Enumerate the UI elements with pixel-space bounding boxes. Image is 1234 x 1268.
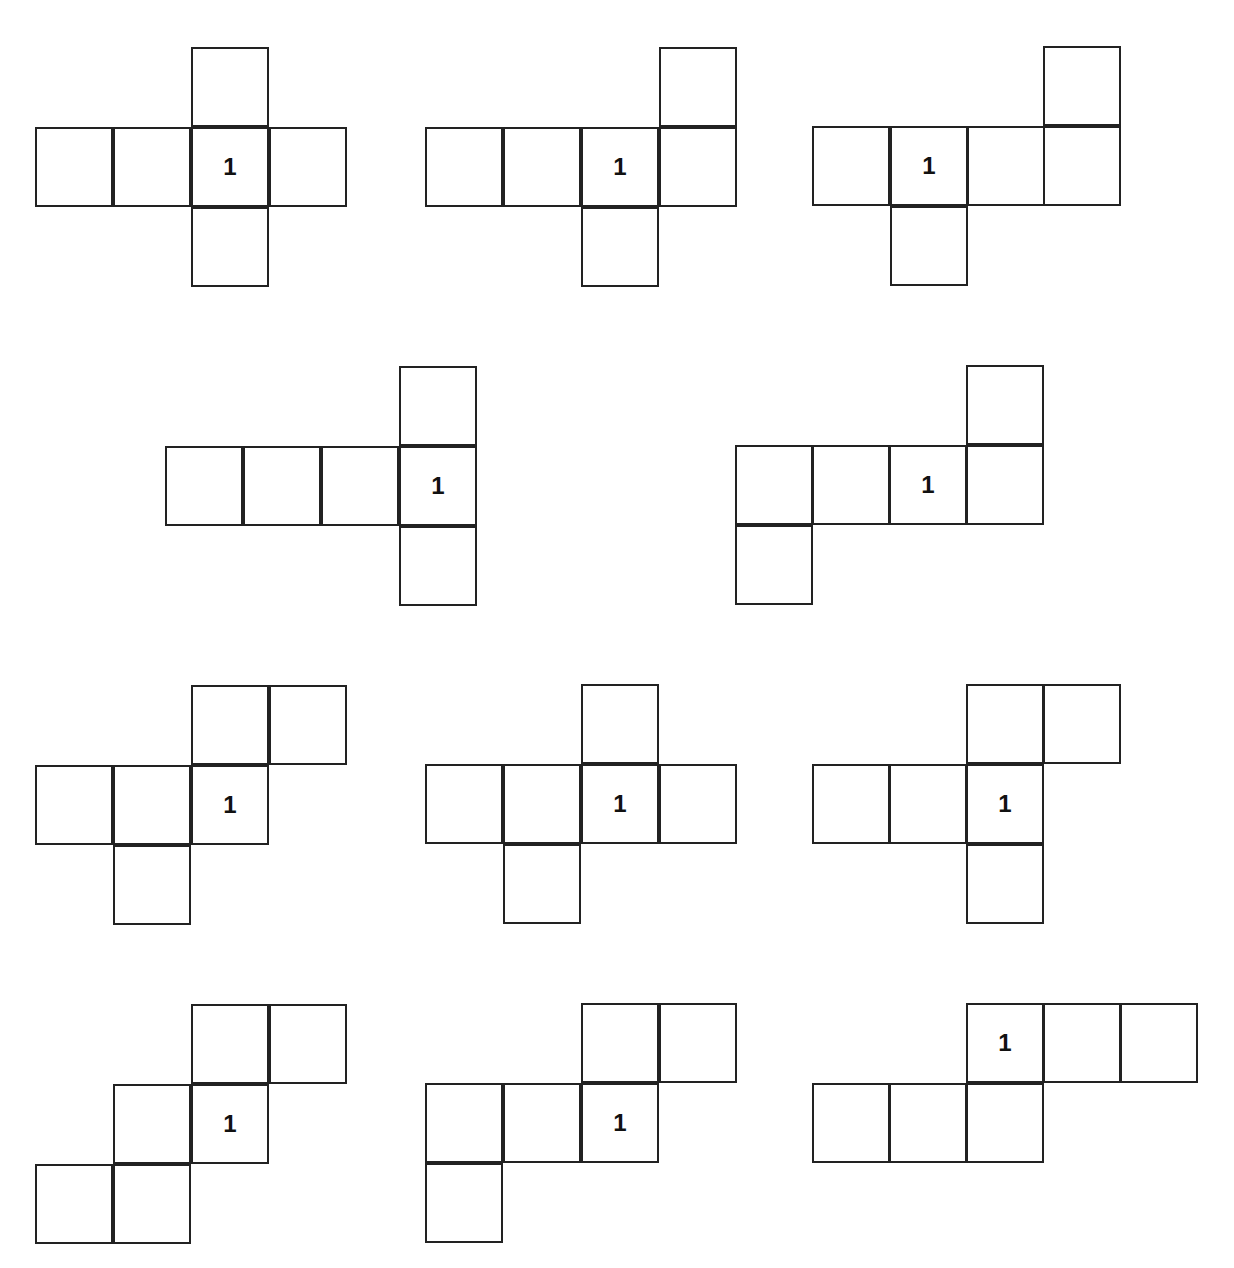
net-square <box>812 764 890 844</box>
net-square <box>165 446 243 526</box>
face-1-square: 1 <box>191 765 269 845</box>
net-square <box>581 207 659 287</box>
net-square <box>1043 1003 1121 1083</box>
net-square <box>1120 1003 1198 1083</box>
net-square <box>503 844 581 924</box>
net-square <box>425 127 503 207</box>
net-square <box>113 765 191 845</box>
net-square <box>113 1084 191 1164</box>
face-1-square: 1 <box>890 126 968 206</box>
net-square <box>659 764 737 844</box>
net-square <box>191 685 269 765</box>
net-square <box>191 207 269 287</box>
net-square <box>1043 684 1121 764</box>
net-square <box>890 206 968 286</box>
net-square <box>889 1083 967 1163</box>
net-square <box>659 47 737 127</box>
net-square <box>399 526 477 606</box>
net-square <box>191 47 269 127</box>
net-square <box>503 764 581 844</box>
face-1-square: 1 <box>966 764 1044 844</box>
face-1-square: 1 <box>581 127 659 207</box>
net-square <box>503 1083 581 1163</box>
net-square <box>503 127 581 207</box>
net-square <box>735 445 813 525</box>
net-square <box>889 764 967 844</box>
net-square <box>812 126 890 206</box>
face-1-square: 1 <box>581 1083 659 1163</box>
net-square <box>1043 46 1121 126</box>
net-square <box>269 127 347 207</box>
net-square <box>399 366 477 446</box>
face-1-square: 1 <box>191 127 269 207</box>
net-square <box>191 1004 269 1084</box>
face-1-square: 1 <box>966 1003 1044 1083</box>
net-square <box>269 685 347 765</box>
net-square <box>113 1164 191 1244</box>
net-square <box>966 844 1044 924</box>
net-square <box>113 845 191 925</box>
net-square <box>967 126 1045 206</box>
net-square <box>966 445 1044 525</box>
net-square <box>659 127 737 207</box>
face-1-square: 1 <box>889 445 967 525</box>
net-square <box>269 1004 347 1084</box>
net-square <box>35 1164 113 1244</box>
net-square <box>1043 126 1121 206</box>
net-square <box>735 525 813 605</box>
net-square <box>966 1083 1044 1163</box>
net-square <box>581 684 659 764</box>
net-square <box>812 445 890 525</box>
net-square <box>966 684 1044 764</box>
face-1-square: 1 <box>399 446 477 526</box>
net-square <box>425 1163 503 1243</box>
net-square <box>966 365 1044 445</box>
net-square <box>243 446 321 526</box>
net-square <box>321 446 399 526</box>
face-1-square: 1 <box>581 764 659 844</box>
net-square <box>35 765 113 845</box>
net-square <box>812 1083 890 1163</box>
net-square <box>581 1003 659 1083</box>
face-1-square: 1 <box>191 1084 269 1164</box>
net-square <box>113 127 191 207</box>
net-square <box>425 1083 503 1163</box>
net-square <box>35 127 113 207</box>
net-square <box>659 1003 737 1083</box>
net-square <box>425 764 503 844</box>
